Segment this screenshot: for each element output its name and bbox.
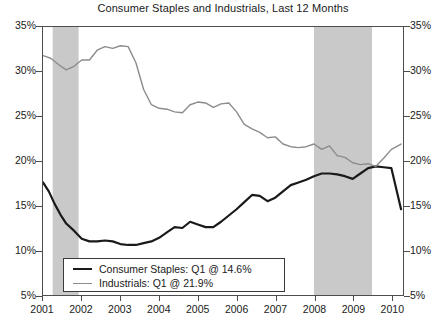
x-axis-label-2007: 2007: [254, 303, 298, 315]
x-axis-label-2004: 2004: [137, 303, 181, 315]
y-axis-label-right-15: 15%: [410, 199, 431, 211]
y-axis-label-left-15: 15%: [2, 199, 36, 211]
x-tick-2003: [120, 296, 121, 301]
x-tick-2004: [159, 296, 160, 301]
x-axis-label-2010: 2010: [370, 303, 414, 315]
x-axis-label-2006: 2006: [215, 303, 259, 315]
y-axis-label-right-30: 30%: [410, 64, 431, 76]
y-tick-left-20: [36, 161, 42, 162]
chart-title: Consumer Staples and Industrials, Last 1…: [0, 2, 446, 14]
chart-figure: Consumer Staples and Industrials, Last 1…: [0, 0, 446, 324]
legend-item-industrials: Industrials: Q1 @ 21.9%: [64, 276, 284, 290]
legend-item-consumer-staples: Consumer Staples: Q1 @ 14.6%: [64, 262, 284, 276]
x-axis-label-2003: 2003: [98, 303, 142, 315]
y-axis-label-left-10: 10%: [2, 244, 36, 256]
x-tick-2008: [315, 296, 316, 301]
plot-area: [42, 26, 404, 296]
x-tick-2009: [353, 296, 354, 301]
x-tick-2010: [392, 296, 393, 301]
x-tick-2001: [42, 296, 43, 301]
x-axis-label-2005: 2005: [176, 303, 220, 315]
x-tick-2002: [81, 296, 82, 301]
y-axis-label-right-5: 5%: [410, 289, 425, 301]
plot-svg: [43, 27, 403, 295]
recession-band-2008: [314, 27, 372, 295]
y-tick-left-15: [36, 206, 42, 207]
x-axis-label-2009: 2009: [331, 303, 375, 315]
y-axis-label-left-30: 30%: [2, 64, 36, 76]
y-axis-label-left-5: 5%: [2, 289, 36, 301]
chart-legend: Consumer Staples: Q1 @ 14.6% Industrials…: [63, 258, 285, 292]
recession-band-2001: [53, 27, 79, 295]
x-tick-2007: [276, 296, 277, 301]
legend-label-industrials: Industrials: Q1 @ 21.9%: [99, 277, 213, 289]
y-axis-label-right-20: 20%: [410, 154, 431, 166]
x-axis-label-2002: 2002: [59, 303, 103, 315]
x-tick-2005: [198, 296, 199, 301]
y-axis-label-left-25: 25%: [2, 109, 36, 121]
x-tick-2006: [237, 296, 238, 301]
y-tick-left-30: [36, 71, 42, 72]
y-axis-label-left-35: 35%: [2, 19, 36, 31]
legend-label-consumer-staples: Consumer Staples: Q1 @ 14.6%: [99, 263, 251, 275]
legend-swatch-consumer-staples: [73, 268, 92, 270]
y-tick-left-35: [36, 26, 42, 27]
x-axis-label-2001: 2001: [20, 303, 64, 315]
y-axis-label-right-35: 35%: [410, 19, 431, 31]
y-axis-label-left-20: 20%: [2, 154, 36, 166]
legend-swatch-industrials: [73, 283, 92, 284]
y-tick-left-10: [36, 251, 42, 252]
y-axis-label-right-10: 10%: [410, 244, 431, 256]
x-axis-label-2008: 2008: [293, 303, 337, 315]
y-axis-label-right-25: 25%: [410, 109, 431, 121]
recession-shading-group: [53, 27, 372, 295]
y-tick-left-25: [36, 116, 42, 117]
